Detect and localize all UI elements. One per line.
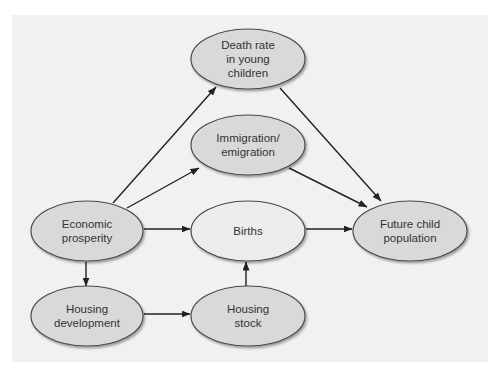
node-immigration bbox=[191, 115, 305, 175]
nodes bbox=[31, 29, 467, 346]
causal-diagram bbox=[0, 0, 501, 374]
node-housing-development bbox=[31, 286, 143, 346]
node-future-child-population bbox=[353, 201, 467, 261]
node-economic-prosperity bbox=[31, 201, 143, 261]
edge-economic-to-immigration bbox=[127, 168, 199, 208]
node-births bbox=[191, 201, 305, 261]
node-housing-stock bbox=[191, 286, 305, 346]
node-death-rate bbox=[191, 29, 305, 89]
edge-immigration-to-future bbox=[289, 168, 367, 207]
